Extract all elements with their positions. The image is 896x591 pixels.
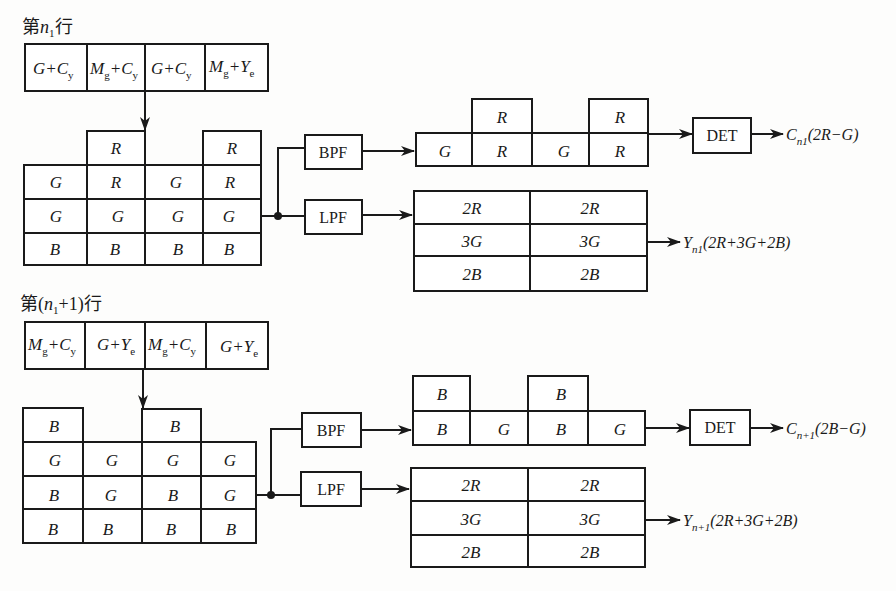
header-cell: G+Cy — [151, 59, 192, 81]
row2-det-block: DET — [690, 410, 750, 445]
bpf-cell: G — [614, 420, 626, 439]
row1-section: 第n1行 G+Cy Mg+Cy G+Cy Mg+Ye R R G — [22, 17, 858, 291]
bpf-cell: R — [614, 142, 626, 161]
row2-lpf-output: 2R 2R 3G 3G 2B 2B — [411, 468, 645, 567]
row2-title: 第(n1+1)行 — [20, 294, 102, 316]
bpf-cell: R — [496, 108, 508, 127]
bpf-cell: G — [498, 420, 510, 439]
bpf-cell: G — [439, 142, 451, 161]
bpf-cell: B — [437, 385, 448, 404]
lpf-cell: 2B — [463, 265, 483, 284]
bpf-label: BPF — [319, 144, 348, 161]
grid-cell: B — [110, 240, 121, 259]
row1-bpf-output: R R G R G R — [416, 99, 648, 166]
grid-cell: G — [50, 173, 62, 192]
lpf-cell: 2R — [462, 476, 482, 495]
row2-bpf-output: B B B G B G — [413, 376, 645, 445]
grid-cell: G — [172, 207, 184, 226]
grid-cell: B — [48, 520, 59, 539]
row2-section: 第(n1+1)行 Mg+Cy G+Ye Mg+Cy G+Ye B B G G — [20, 294, 866, 567]
row2-header-cells: Mg+Cy G+Ye Mg+Cy G+Ye — [25, 322, 268, 369]
lpf-label: LPF — [319, 209, 347, 226]
bpf-cell: R — [496, 142, 508, 161]
grid-cell: B — [49, 486, 60, 505]
header-cell: Mg+Cy — [147, 335, 196, 357]
grid-cell: G — [50, 207, 62, 226]
header-cell: Mg+Cy — [89, 59, 138, 81]
header-cell: G+Cy — [33, 59, 74, 81]
grid-cell: B — [173, 240, 184, 259]
grid-cell: G — [49, 451, 61, 470]
bpf-cell: B — [556, 420, 567, 439]
grid-cell: G — [223, 207, 235, 226]
grid-cell: G — [112, 207, 124, 226]
row1-lpf-block: LPF — [305, 200, 362, 234]
det-label: DET — [706, 127, 737, 144]
lpf-cell: 2B — [581, 543, 601, 562]
lpf-cell: 3G — [579, 232, 601, 251]
lpf-cell: 2B — [581, 265, 601, 284]
grid-cell: B — [49, 417, 60, 436]
row1-lpf-output: 2R 2R 3G 3G 2B 2B — [414, 191, 647, 291]
lpf-label: LPF — [317, 481, 345, 498]
grid-cell: G — [224, 451, 236, 470]
grid-cell: G — [105, 486, 117, 505]
grid-cell: B — [170, 417, 181, 436]
row1-luma-output: Yn1(2R+3G+2B) — [683, 234, 790, 255]
lpf-cell: 3G — [461, 232, 483, 251]
lpf-cell: 2R — [581, 199, 601, 218]
header-cell: G+Ye — [220, 337, 258, 359]
grid-cell: G — [224, 486, 236, 505]
bpf-cell: B — [437, 420, 448, 439]
row1-header-cells: G+Cy Mg+Cy G+Cy Mg+Ye — [25, 44, 268, 91]
grid-cell: R — [110, 139, 122, 158]
grid-cell: B — [226, 520, 237, 539]
bpf-cell: R — [614, 108, 626, 127]
grid-cell: R — [110, 173, 122, 192]
row2-bpf-block: BPF — [302, 413, 361, 447]
grid-cell: B — [224, 240, 235, 259]
grid-cell: G — [106, 451, 118, 470]
lpf-cell: 2R — [463, 199, 483, 218]
bpf-cell: G — [558, 142, 570, 161]
row2-chroma-output: Cn+1(2B−G) — [786, 420, 866, 441]
row2-luma-output: Yn+1(2R+3G+2B) — [683, 512, 798, 533]
row2-pixel-grid: B B G G G G B G B G B B B B — [23, 408, 256, 543]
row1-title: 第n1行 — [22, 17, 73, 39]
lpf-cell: 3G — [460, 510, 482, 529]
header-cell: G+Ye — [97, 335, 135, 357]
diagram-canvas: 第n1行 G+Cy Mg+Cy G+Cy Mg+Ye R R G — [0, 0, 896, 591]
grid-cell: B — [50, 240, 61, 259]
grid-cell: G — [167, 451, 179, 470]
lpf-cell: 3G — [579, 510, 601, 529]
det-label: DET — [704, 419, 735, 436]
grid-cell: R — [224, 173, 236, 192]
bpf-label: BPF — [317, 422, 346, 439]
lpf-cell: 2B — [462, 543, 482, 562]
row2-lpf-block: LPF — [301, 472, 361, 506]
row1-bpf-block: BPF — [305, 135, 362, 169]
header-cell: Mg+Ye — [208, 57, 255, 79]
header-cell: Mg+Cy — [27, 335, 76, 357]
grid-cell: R — [226, 139, 238, 158]
row1-pixel-grid: R R G R G R G G G G B B B B — [24, 131, 261, 265]
grid-cell: B — [168, 486, 179, 505]
bpf-cell: B — [556, 385, 567, 404]
row1-chroma-output: Cn1(2R−G) — [786, 126, 858, 147]
grid-cell: G — [170, 173, 182, 192]
grid-cell: B — [103, 520, 114, 539]
grid-cell: B — [166, 520, 177, 539]
row1-det-block: DET — [693, 118, 751, 153]
lpf-cell: 2R — [581, 476, 601, 495]
